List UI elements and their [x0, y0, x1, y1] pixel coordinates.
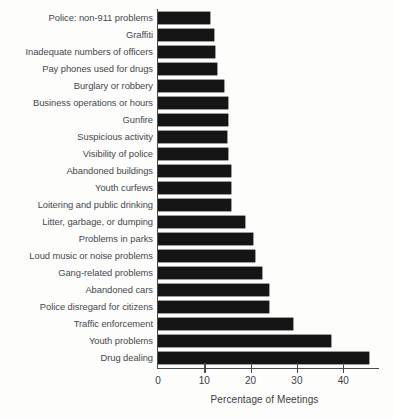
x-tick-label: 40: [338, 375, 349, 386]
bar-row: Abandoned buildings: [0, 162, 394, 179]
category-label: Abandoned buildings: [3, 165, 157, 176]
bar: [158, 12, 210, 24]
x-tick: [251, 363, 252, 373]
category-label: Burglary or robbery: [3, 80, 157, 91]
bar: [158, 114, 228, 126]
x-tick-label: 30: [291, 375, 302, 386]
bar-row: Burglary or robbery: [0, 77, 394, 94]
category-label: Loitering and public drinking: [3, 199, 157, 210]
x-tick-label: 20: [245, 375, 256, 386]
bar-row: Police disregard for citizens: [0, 298, 394, 315]
category-label: Visibility of police: [3, 148, 157, 159]
bar-track: [158, 318, 293, 330]
bar-row: Visibility of police: [0, 145, 394, 162]
bar: [158, 216, 245, 228]
category-label: Drug dealing: [3, 352, 157, 363]
bar-track: [158, 97, 228, 109]
bar-track: [158, 80, 224, 92]
bar-track: [158, 301, 269, 313]
bar-track: [158, 199, 231, 211]
category-label: Youth problems: [3, 335, 157, 346]
bar-track: [158, 335, 331, 347]
bar-row: Loitering and public drinking: [0, 196, 394, 213]
bar-track: [158, 284, 269, 296]
category-label: Loud music or noise problems: [3, 250, 157, 261]
bar: [158, 233, 253, 245]
bar-row: Drug dealing: [0, 349, 394, 366]
bar: [158, 352, 369, 364]
bar-track: [158, 267, 262, 279]
bar-row: Gang-related problems: [0, 264, 394, 281]
bar-row: Gunfire: [0, 111, 394, 128]
category-label: Litter, garbage, or dumping: [3, 216, 157, 227]
bar-row: Inadequate numbers of officers: [0, 43, 394, 60]
category-label: Youth curfews: [3, 182, 157, 193]
x-tick-label: 0: [155, 375, 161, 386]
bar: [158, 284, 269, 296]
category-label: Abandoned cars: [3, 284, 157, 295]
plot-area: Police: non-911 problemsGraffitiInadequa…: [0, 0, 394, 419]
bar: [158, 250, 255, 262]
bar: [158, 29, 214, 41]
category-label: Suspicious activity: [3, 131, 157, 142]
x-tick-label: 10: [199, 375, 210, 386]
y-axis-line: [157, 9, 158, 369]
bar-row: Suspicious activity: [0, 128, 394, 145]
bar-track: [158, 216, 245, 228]
bar-row: Loud music or noise problems: [0, 247, 394, 264]
x-tick: [204, 363, 205, 373]
category-label: Police disregard for citizens: [3, 301, 157, 312]
bar-track: [158, 148, 228, 160]
bar-row: Business operations or hours: [0, 94, 394, 111]
x-axis-line: [157, 368, 379, 369]
bar-row: Police: non-911 problems: [0, 9, 394, 26]
category-label: Gang-related problems: [3, 267, 157, 278]
bar-track: [158, 182, 231, 194]
bar-row: Litter, garbage, or dumping: [0, 213, 394, 230]
bar-track: [158, 29, 214, 41]
category-label: Graffiti: [3, 29, 157, 40]
bar: [158, 318, 293, 330]
x-tick: [297, 363, 298, 373]
bar: [158, 301, 269, 313]
bar: [158, 63, 217, 75]
bar-track: [158, 233, 253, 245]
category-label: Pay phones used for drugs: [3, 63, 157, 74]
bar-track: [158, 12, 210, 24]
bar-row: Youth problems: [0, 332, 394, 349]
bar: [158, 131, 227, 143]
bar: [158, 199, 231, 211]
bar: [158, 46, 215, 58]
bar-track: [158, 63, 217, 75]
bar-track: [158, 165, 231, 177]
bar-row: Graffiti: [0, 26, 394, 43]
bar-chart: Police: non-911 problemsGraffitiInadequa…: [0, 0, 394, 419]
bar-rows: Police: non-911 problemsGraffitiInadequa…: [0, 9, 394, 366]
bar: [158, 267, 262, 279]
category-label: Business operations or hours: [3, 97, 157, 108]
bar: [158, 335, 331, 347]
category-label: Problems in parks: [3, 233, 157, 244]
bar: [158, 165, 231, 177]
bar-track: [158, 131, 227, 143]
bar: [158, 182, 231, 194]
bar: [158, 148, 228, 160]
bar-row: Youth curfews: [0, 179, 394, 196]
bar-track: [158, 250, 255, 262]
category-label: Traffic enforcement: [3, 318, 157, 329]
bar-row: Traffic enforcement: [0, 315, 394, 332]
bar-row: Abandoned cars: [0, 281, 394, 298]
category-label: Inadequate numbers of officers: [3, 46, 157, 57]
category-label: Police: non-911 problems: [3, 12, 157, 23]
bar-track: [158, 114, 228, 126]
x-tick: [343, 363, 344, 373]
bar: [158, 97, 228, 109]
bar-track: [158, 46, 215, 58]
x-axis-title: Percentage of Meetings: [157, 394, 372, 405]
bar-row: Pay phones used for drugs: [0, 60, 394, 77]
bar: [158, 80, 224, 92]
category-label: Gunfire: [3, 114, 157, 125]
bar-track: [158, 352, 369, 364]
bar-row: Problems in parks: [0, 230, 394, 247]
